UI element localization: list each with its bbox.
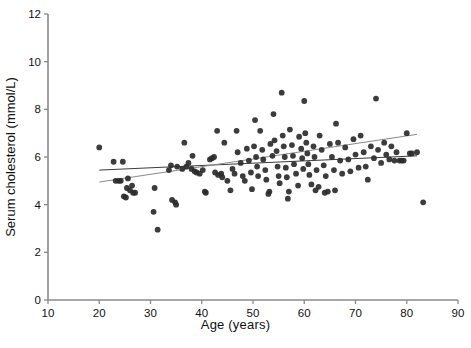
- data-point: [285, 196, 291, 202]
- data-point: [311, 143, 317, 149]
- data-point: [132, 190, 138, 196]
- data-point: [129, 183, 135, 189]
- data-point: [312, 154, 318, 160]
- data-point: [345, 156, 351, 162]
- data-point: [286, 189, 292, 195]
- data-point: [281, 143, 287, 149]
- data-point: [271, 111, 277, 117]
- data-point: [299, 155, 305, 161]
- data-point: [242, 178, 248, 184]
- data-point: [166, 167, 172, 173]
- data-point: [246, 158, 252, 164]
- data-point: [248, 170, 254, 176]
- data-point: [296, 134, 302, 140]
- data-point: [219, 174, 225, 180]
- data-point: [174, 164, 180, 170]
- data-point: [381, 140, 387, 146]
- data-point: [337, 158, 343, 164]
- data-point: [253, 154, 259, 160]
- data-point: [244, 146, 250, 152]
- data-point: [228, 187, 234, 193]
- data-point: [317, 133, 323, 139]
- data-point: [321, 162, 327, 168]
- data-point: [214, 128, 220, 134]
- data-point: [401, 158, 407, 164]
- data-point: [302, 130, 308, 136]
- data-point: [276, 173, 282, 179]
- data-point: [303, 140, 309, 146]
- data-point: [155, 227, 161, 233]
- data-point: [254, 164, 260, 170]
- data-point: [189, 166, 195, 172]
- data-point: [414, 149, 420, 155]
- data-point: [181, 140, 187, 146]
- data-point: [323, 173, 329, 179]
- data-point: [277, 180, 283, 186]
- data-point: [235, 149, 241, 155]
- data-point: [200, 167, 206, 173]
- data-point: [327, 141, 333, 147]
- data-point: [249, 186, 255, 192]
- data-point: [270, 153, 276, 159]
- data-point: [284, 174, 290, 180]
- scatter-chart-figure: 024681012102030405060708090Serum cholest…: [0, 0, 471, 348]
- y-axis-title: Serum cholesterol (mmol/L): [3, 77, 18, 237]
- data-point: [152, 185, 158, 191]
- data-point: [290, 153, 296, 159]
- data-point: [351, 136, 357, 142]
- data-point: [373, 96, 379, 102]
- data-point: [404, 130, 410, 136]
- data-point: [358, 133, 364, 139]
- plot-canvas: 024681012102030405060708090Serum cholest…: [0, 0, 471, 348]
- data-point: [238, 160, 244, 166]
- y-tick-label: 6: [35, 151, 41, 163]
- data-point: [383, 152, 389, 158]
- data-point: [371, 155, 377, 161]
- data-point: [274, 148, 280, 154]
- data-point: [314, 167, 320, 173]
- data-point: [332, 187, 338, 193]
- data-point: [322, 190, 328, 196]
- y-tick-label: 4: [35, 199, 42, 211]
- data-point: [263, 177, 269, 183]
- data-point: [409, 151, 415, 157]
- data-point: [224, 178, 230, 184]
- data-point: [353, 152, 359, 158]
- data-point: [356, 165, 362, 171]
- data-point: [283, 165, 289, 171]
- data-point: [282, 154, 288, 160]
- x-axis-title: Age (years): [0, 317, 471, 332]
- data-point: [295, 183, 301, 189]
- data-point: [331, 167, 337, 173]
- data-point: [309, 182, 315, 188]
- data-point: [378, 160, 384, 166]
- data-point: [301, 98, 307, 104]
- data-point: [386, 156, 392, 162]
- data-point: [279, 90, 285, 96]
- data-point: [190, 153, 196, 159]
- data-point: [260, 156, 266, 162]
- data-point: [252, 117, 258, 123]
- data-point: [151, 209, 157, 215]
- data-point: [275, 164, 281, 170]
- data-point: [186, 160, 192, 166]
- data-point: [118, 178, 124, 184]
- data-point: [375, 147, 381, 153]
- data-point: [96, 145, 102, 151]
- data-point: [293, 171, 299, 177]
- data-point: [392, 158, 398, 164]
- data-point: [287, 127, 293, 133]
- data-point: [291, 161, 297, 167]
- data-point: [234, 128, 240, 134]
- y-tick-label: 8: [35, 103, 41, 115]
- data-point: [329, 154, 335, 160]
- data-point: [319, 147, 325, 153]
- y-tick-label: 0: [35, 294, 41, 306]
- data-point: [305, 161, 311, 167]
- data-point: [347, 168, 353, 174]
- data-point: [280, 133, 286, 139]
- data-point: [388, 143, 394, 149]
- data-point: [173, 202, 179, 208]
- data-point: [339, 171, 345, 177]
- data-point: [361, 149, 367, 155]
